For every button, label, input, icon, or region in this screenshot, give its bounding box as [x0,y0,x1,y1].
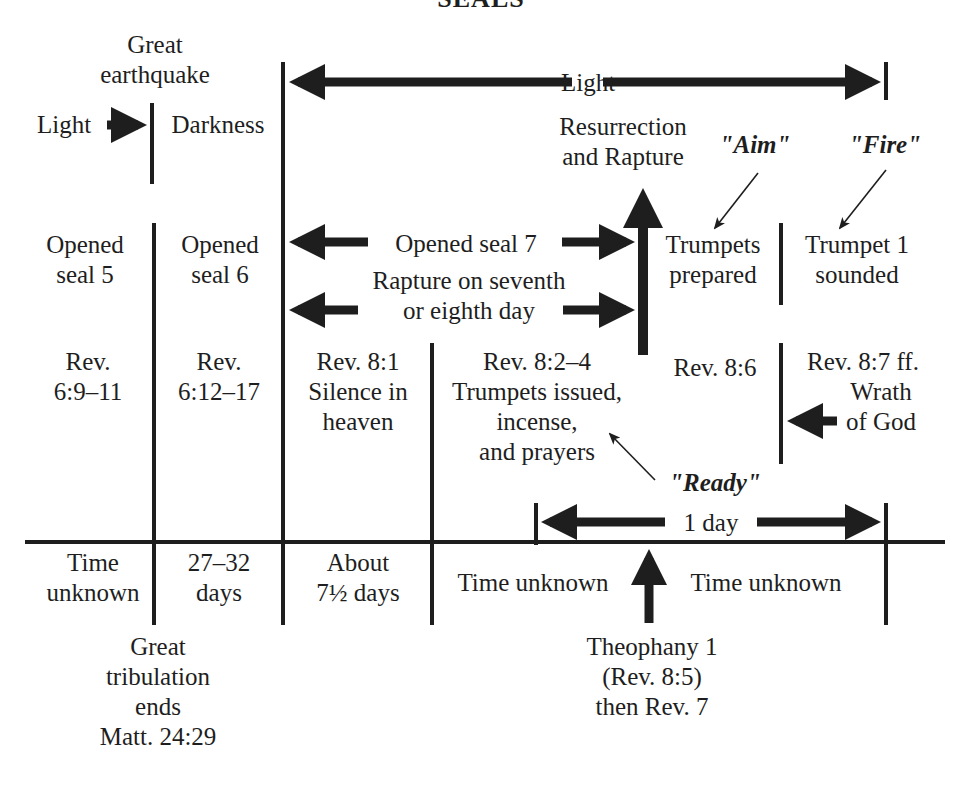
duration-seal6: 27–32days [188,548,251,608]
light-label: Light [37,110,91,140]
seal5-label: Openedseal 5 [46,230,124,290]
aim-label: "Aim" [720,130,791,160]
seal7-label: Opened seal 7 [395,229,537,259]
aim-pointer [715,173,758,228]
trumpets-prepared-label: Trumpetsprepared [666,230,761,290]
light-span-label: Light [561,68,615,98]
fire-pointer [840,170,886,228]
ref-rev-8-1: Rev. 8:1Silence inheaven [308,347,407,437]
great-earthquake-label: Greatearthquake [100,30,210,90]
theophany-label: Theophany 1(Rev. 8:5)then Rev. 7 [586,632,717,722]
ref-rev-6-9: Rev.6:9–11 [54,347,123,407]
seal6-label: Openedseal 6 [181,230,259,290]
duration-before-theophany: Time unknown [457,568,608,598]
ref-rev-8-7: Rev. 8:7 ff. Wrath of God [807,347,919,437]
ref-rev-6-12: Rev.6:12–17 [178,347,260,407]
seals-timeline-diagram: SEALS [0,0,962,789]
ref-rev-8-2: Rev. 8:2–4Trumpets issued,incense,and pr… [452,347,622,467]
darkness-label: Darkness [171,110,264,140]
trumpet1-label: Trumpet 1sounded [805,230,909,290]
duration-seal5: Timeunknown [46,548,139,608]
fire-label: "Fire" [849,130,921,160]
rapture-day-label: Rapture on seventhor eighth day [372,266,565,326]
duration-after-theophany: Time unknown [690,568,841,598]
resurrection-rapture-label: Resurrectionand Rapture [559,112,687,172]
great-tribulation-label: GreattribulationendsMatt. 24:29 [100,632,217,752]
one-day-label: 1 day [678,508,745,538]
ready-label: "Ready" [669,468,761,498]
duration-silence: About7½ days [316,548,399,608]
ref-rev-8-6: Rev. 8:6 [673,353,756,383]
